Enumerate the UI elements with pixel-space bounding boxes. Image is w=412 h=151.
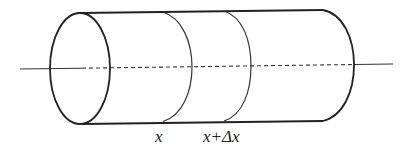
axis-right-solid <box>354 64 393 65</box>
axis-left-solid <box>20 68 82 69</box>
label-x-plus-delta-x: x+Δx <box>203 128 240 145</box>
cylinder-top-edge <box>80 10 323 13</box>
label-x: x <box>155 128 163 145</box>
cylinder-bottom-edge <box>82 121 323 124</box>
cylinder-right-end-arc <box>323 10 354 121</box>
axis-dashed-hidden <box>82 65 354 69</box>
